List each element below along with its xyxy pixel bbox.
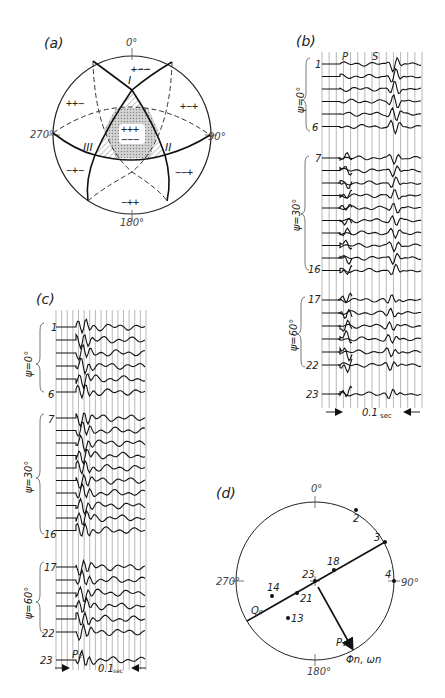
psi-0-label: ψ=0° [295,87,306,113]
azimuth-180-label: 180° [120,217,144,228]
sign-center-bottom: −−− [121,134,139,145]
psi-0-label: ψ=0° [23,351,34,377]
trace-label-6: 6 [312,122,318,133]
panel-b-label: (b) [296,33,316,49]
p1-arrow [318,587,352,648]
trace-label-16: 16 [44,529,57,540]
q0-label: Q₀ [251,605,263,616]
azimuth-180-label: 180° [307,666,331,677]
azimuth-0-label: 0° [311,483,322,494]
panel-b-scale-bar: 0.1 sec [326,407,420,420]
panel-b-seismograms [322,58,421,399]
panel-b-timing-lines [322,52,422,408]
point-4-label: 4 [385,569,391,580]
azimuth-90-label: 90° [401,577,419,588]
panel-c-label: (c) [36,291,55,307]
trace-label-17: 17 [44,562,57,573]
trace-label-7: 7 [315,153,322,164]
sign-lower-left: −+− [66,165,84,176]
trace-label-23: 23 [306,389,319,400]
azimuth-90-label: 90° [208,131,226,142]
sign-bottom: −++ [121,197,139,208]
azimuth-0-label: 0° [126,37,137,48]
figure-caption [0,688,445,698]
scale-c-value: 0.1 [98,663,114,674]
phase-p2-label: P₂ [72,649,82,660]
azimuth-270-label: 270° [30,129,54,140]
panel-c-seismograms [56,319,145,665]
panel-b: (b) P S 1 6 7 16 17 22 23 ψ=0° ψ=30° ψ=6… [288,33,422,420]
trace-label-1: 1 [51,322,57,333]
point-2-label: 2 [353,513,359,524]
psi-30-label: ψ=30° [291,199,302,232]
panel-c-scale-bar: 0.1 sec [55,663,146,674]
panel-a-label: (a) [44,35,64,51]
point-21-label: 21 [300,593,313,604]
trace-label-17: 17 [308,294,321,305]
scale-b-value: 0.1 [362,407,378,418]
azimuth-270-label: 270° [216,576,240,587]
phi-omega-label: Φn, ωn [346,654,381,665]
panel-c-trace-labels: 1 6 7 16 17 22 23 ψ=0° ψ=30° ψ=60° P₂ [23,322,82,666]
trace-label-6: 6 [48,389,54,400]
trace-label-22: 22 [42,628,55,639]
nodal-label-2: II [165,141,172,154]
point-23-label: 23 [302,569,315,580]
panel-d-label: (d) [216,485,236,501]
trace-label-22: 22 [306,360,319,371]
panel-c: (c) 1 6 7 16 17 22 23 ψ=0° ψ=30° ψ=60° P… [23,291,146,674]
sign-upper-left: ++− [66,98,84,109]
sign-upper-right: +−+ [180,101,198,112]
panel-a: (a) 0° 90° 180° 270° I II III +−− ++− +−… [30,35,226,228]
point-14-label: 14 [267,582,280,593]
phase-s-label: S [372,51,379,62]
panel-d: (d) 0° 90° 180° 270° 2 3 4 18 23 21 14 1… [216,483,419,677]
sign-top: +−− [131,64,149,75]
panel-b-trace-labels: 1 6 7 16 17 22 23 ψ=0° ψ=30° ψ=60° [288,58,322,400]
nodal-label-1: I [128,74,131,87]
figure-canvas: (a) 0° 90° 180° 270° I II III +−− ++− +−… [0,0,445,698]
scale-c-unit: sec [113,667,123,674]
p1-label: P₁ [336,637,346,648]
point-13-label: 13 [291,613,304,624]
phase-p-label: P [342,51,349,62]
psi-60-label: ψ=60° [288,319,299,352]
trace-label-23: 23 [40,655,53,666]
point-18-label: 18 [327,556,340,567]
psi-30-label: ψ=30° [23,461,34,494]
trace-label-7: 7 [48,414,55,425]
trace-label-16: 16 [308,264,321,275]
scale-b-unit: sec [380,412,392,420]
point-3-label: 3 [374,532,380,543]
trace-label-1: 1 [315,59,321,70]
psi-60-label: ψ=60° [23,587,34,620]
nodal-label-3: III [83,141,93,154]
sign-lower-right: −−+ [175,167,193,178]
